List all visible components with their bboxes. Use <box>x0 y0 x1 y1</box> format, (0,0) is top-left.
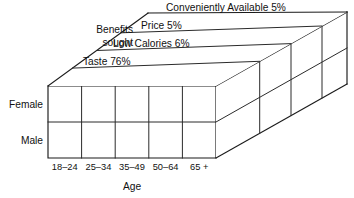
x-axis-tick-1: 25–34 <box>85 162 111 172</box>
benefit-layer-label-taste: Taste 76% <box>83 56 131 67</box>
benefit-layer-label-price: Price 5% <box>141 20 182 31</box>
z-axis-title-line1: Benefits <box>96 24 133 35</box>
x-axis-tick-0: 18–24 <box>52 162 78 172</box>
front-face <box>48 86 216 158</box>
benefit-layer-label-conveniently-available: Conveniently Available 5% <box>166 2 286 13</box>
segmentation-cube-figure: Benefits sought Conveniently Available 5… <box>0 0 354 198</box>
x-axis-tick-4: 65 + <box>190 162 208 172</box>
y-axis-tick-male: Male <box>21 135 43 146</box>
x-axis-tick-2: 35–49 <box>119 162 145 172</box>
y-axis-tick-female: Female <box>9 99 43 110</box>
cube-diagram-canvas: Benefits sought Conveniently Available 5… <box>0 0 354 198</box>
x-axis-tick-3: 50–64 <box>153 162 179 172</box>
x-axis-title: Age <box>123 181 141 192</box>
benefit-layer-label-low-calories: Low Calories 6% <box>113 38 189 49</box>
